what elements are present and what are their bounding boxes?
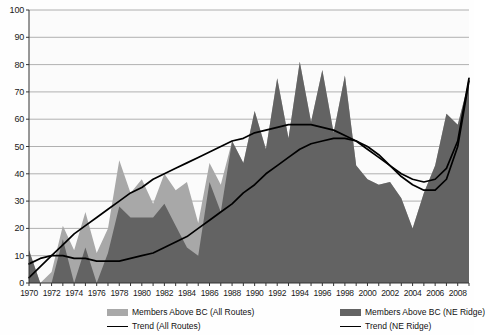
- x-axis-tick-label: 2000: [359, 288, 377, 298]
- legend-swatch-box: [107, 309, 128, 316]
- y-axis-tick-label: 90: [0, 32, 24, 42]
- x-axis-tick-label: 1990: [246, 288, 264, 298]
- x-axis-tick-label: 1986: [201, 288, 219, 298]
- y-axis-tick-label: 50: [0, 142, 24, 152]
- legend-label: Trend (All Routes): [132, 321, 201, 331]
- legend-label: Trend (NE Ridge): [365, 321, 431, 331]
- y-axis-tick-label: 80: [0, 60, 24, 70]
- legend-swatch-box: [340, 309, 361, 316]
- x-axis-tick-label: 1992: [268, 288, 286, 298]
- x-axis-tick-label: 1984: [178, 288, 196, 298]
- x-axis-tick-label: 2004: [404, 288, 422, 298]
- y-axis-tick-label: 70: [0, 87, 24, 97]
- x-axis-tick-label: 1970: [20, 288, 38, 298]
- x-axis-tick-label: 1998: [336, 288, 354, 298]
- x-axis-tick-label: 1980: [133, 288, 151, 298]
- x-axis-tick-label: 2008: [449, 288, 467, 298]
- legend-swatch-line: [107, 326, 128, 327]
- x-axis-tick-label: 2006: [426, 288, 444, 298]
- x-axis-tick-label: 1974: [65, 288, 83, 298]
- y-axis-tick-label: 60: [0, 114, 24, 124]
- legend-label: Members Above BC (NE Ridge): [365, 307, 485, 317]
- chart-svg: [0, 0, 474, 300]
- x-axis-tick-label: 1976: [88, 288, 106, 298]
- y-axis-tick-label: 0: [0, 278, 24, 288]
- x-axis-tick-label: 2002: [381, 288, 399, 298]
- legend-label: Members Above BC (All Routes): [132, 307, 254, 317]
- x-axis-tick-label: 1996: [313, 288, 331, 298]
- y-axis-tick-label: 30: [0, 196, 24, 206]
- y-axis-tick-label: 100: [0, 5, 24, 15]
- y-axis-tick-label: 20: [0, 223, 24, 233]
- legend-item[interactable]: Members Above BC (All Routes): [107, 307, 254, 317]
- x-axis-tick-label: 1994: [291, 288, 309, 298]
- y-axis-tick-label: 10: [0, 251, 24, 261]
- x-axis-tick-label: 1982: [156, 288, 174, 298]
- legend-swatch-line: [340, 326, 361, 327]
- plot-area: 1009080706050403020100 19701972197419761…: [0, 0, 474, 300]
- legend-item[interactable]: Members Above BC (NE Ridge): [340, 307, 485, 317]
- legend-item[interactable]: Trend (NE Ridge): [340, 321, 431, 331]
- chart-legend: Members Above BC (All Routes)Members Abo…: [0, 305, 474, 335]
- y-axis-tick-label: 40: [0, 169, 24, 179]
- x-axis-tick-label: 1988: [223, 288, 241, 298]
- x-axis-tick-label: 1978: [110, 288, 128, 298]
- x-axis-tick-label: 1972: [43, 288, 61, 298]
- legend-item[interactable]: Trend (All Routes): [107, 321, 201, 331]
